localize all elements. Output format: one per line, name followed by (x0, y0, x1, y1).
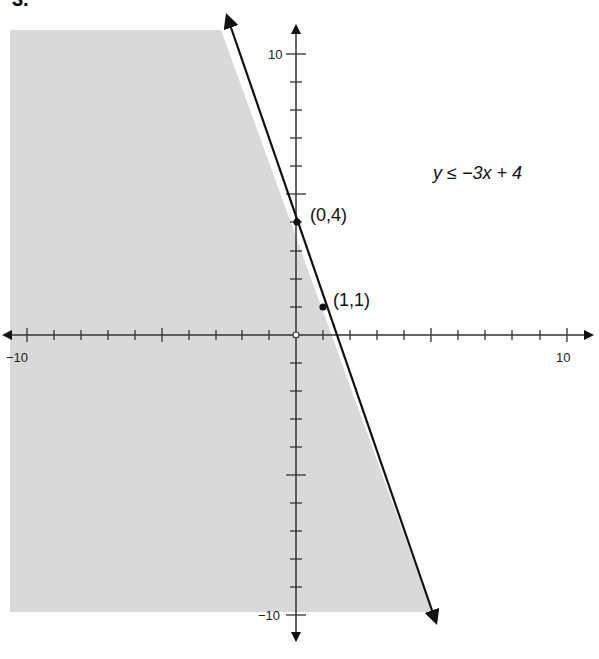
shaded-solution-region (10, 30, 432, 612)
y-tick-label-min: −10 (258, 608, 280, 623)
origin-marker (293, 332, 299, 338)
x-tick-label-min: −10 (6, 350, 28, 365)
point-label-0-4: (0,4) (310, 205, 347, 225)
y-tick-label-max: 10 (268, 47, 282, 62)
coordinate-plane: 3. (0, 0, 599, 659)
inequality-label: y ≤ −3x + 4 (431, 163, 522, 183)
x-tick-label-max: 10 (556, 350, 570, 365)
point-1-1 (319, 303, 326, 310)
point-label-1-1: (1,1) (333, 290, 370, 310)
point-0-4 (293, 218, 300, 225)
problem-number: 3. (12, 0, 29, 10)
